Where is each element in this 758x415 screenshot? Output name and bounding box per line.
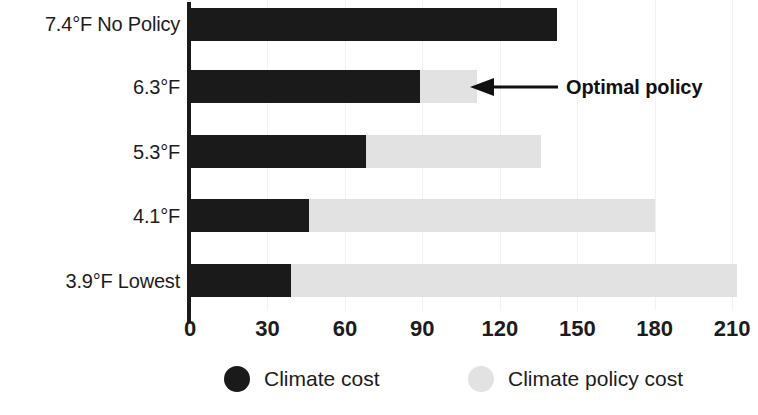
x-tick-5: 150 (559, 316, 596, 342)
legend-item-climate-policy-cost: Climate policy cost (468, 362, 683, 396)
legend-item-climate-cost: Climate cost (224, 362, 380, 396)
bars-layer (190, 0, 758, 310)
bar-segment-climate-policy-cost (420, 70, 477, 103)
legend-swatch-dark-circle-icon (224, 366, 250, 392)
x-tick-0: 0 (184, 316, 196, 342)
x-tick-2: 60 (333, 316, 357, 342)
bar-chart: 7.4°F No Policy 6.3°F 5.3°F 4.1°F 3.9°F … (0, 0, 758, 415)
legend-swatch-light-circle-icon (468, 366, 494, 392)
legend-label-climate-policy-cost: Climate policy cost (508, 367, 683, 391)
bar-segment-climate-cost (190, 199, 309, 232)
bar-segment-climate-cost (190, 70, 420, 103)
bar-segment-climate-cost (190, 8, 557, 41)
x-tick-3: 90 (410, 316, 434, 342)
left-arrow-icon (470, 76, 558, 98)
category-label-2: 5.3°F (0, 142, 180, 162)
category-axis-labels: 7.4°F No Policy 6.3°F 5.3°F 4.1°F 3.9°F … (0, 0, 180, 310)
category-label-3: 4.1°F (0, 206, 180, 226)
x-tick-1: 30 (255, 316, 279, 342)
legend-label-climate-cost: Climate cost (264, 367, 380, 391)
optimal-policy-label: Optimal policy (566, 76, 702, 99)
category-label-1: 6.3°F (0, 77, 180, 97)
category-label-0: 7.4°F No Policy (0, 14, 180, 34)
x-axis-tick-labels: 0 30 60 90 120 150 180 210 (0, 316, 758, 350)
x-tick-6: 180 (636, 316, 673, 342)
bar-segment-climate-policy-cost (309, 199, 655, 232)
bar-segment-climate-policy-cost (291, 264, 738, 297)
table-row (190, 8, 758, 41)
table-row (190, 199, 758, 232)
optimal-policy-annotation: Optimal policy (470, 70, 702, 104)
x-tick-7: 210 (714, 316, 751, 342)
table-row (190, 264, 758, 297)
table-row (190, 135, 758, 168)
bar-segment-climate-cost (190, 264, 291, 297)
bar-segment-climate-cost (190, 135, 366, 168)
category-label-4: 3.9°F Lowest (0, 271, 180, 291)
bar-segment-climate-policy-cost (366, 135, 542, 168)
chart-legend: Climate cost Climate policy cost (190, 362, 758, 412)
x-tick-4: 120 (481, 316, 518, 342)
